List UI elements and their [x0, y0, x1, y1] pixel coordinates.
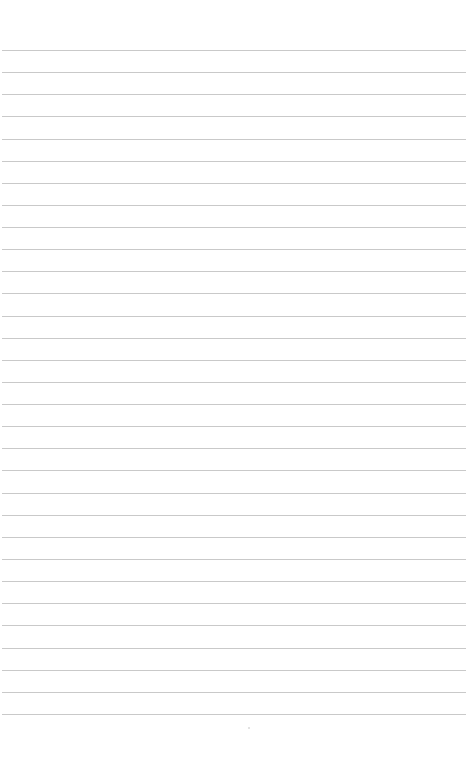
ruled-line [2, 559, 466, 560]
ruled-line [2, 205, 466, 206]
ruled-line [2, 382, 466, 383]
ruled-line [2, 50, 466, 51]
ruled-line [2, 183, 466, 184]
ruled-line [2, 426, 466, 427]
ruled-line [2, 293, 466, 294]
ruled-line [2, 515, 466, 516]
ruled-line [2, 338, 466, 339]
ruled-line [2, 625, 466, 626]
ruled-line [2, 448, 466, 449]
ruled-line [2, 581, 466, 582]
ruled-line [2, 72, 466, 73]
ruled-line [2, 161, 466, 162]
ruled-line [2, 714, 466, 715]
ruled-line [2, 94, 466, 95]
ruled-line [2, 360, 466, 361]
paper-speck [248, 727, 250, 729]
ruled-line [2, 603, 466, 604]
ruled-line [2, 249, 466, 250]
ruled-line [2, 692, 466, 693]
ruled-line [2, 139, 466, 140]
ruled-line [2, 227, 466, 228]
ruled-line [2, 648, 466, 649]
ruled-line [2, 316, 466, 317]
ruled-line [2, 493, 466, 494]
ruled-line [2, 404, 466, 405]
ruled-line [2, 670, 466, 671]
ruled-line [2, 271, 466, 272]
lined-paper-page [0, 0, 468, 770]
ruled-line [2, 537, 466, 538]
ruled-line [2, 116, 466, 117]
ruled-line [2, 470, 466, 471]
